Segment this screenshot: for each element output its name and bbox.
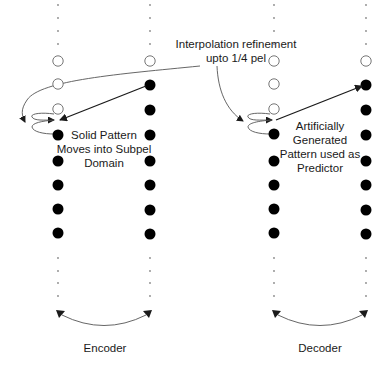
diagram-canvas: Interpolation refinement upto 1/4 pel So… — [0, 0, 392, 370]
pixel-ellipsis-dot — [149, 257, 151, 259]
pixel-filled-dot — [361, 156, 372, 167]
pixel-filled-dot — [361, 229, 372, 240]
pixel-filled-dot — [361, 180, 372, 191]
pixel-filled-dot — [361, 205, 372, 216]
pixel-ellipsis-dot — [273, 30, 275, 32]
pixel-ellipsis-dot — [273, 4, 275, 6]
encoder-label: Encoder — [84, 342, 127, 354]
pixel-ellipsis-dot — [365, 257, 367, 259]
pixel-ellipsis-dot — [57, 4, 59, 6]
subpel-hollow-dot — [269, 79, 279, 89]
pixel-ellipsis-dot — [149, 295, 151, 297]
pixel-ellipsis-dot — [57, 270, 59, 272]
pixel-filled-dot — [145, 229, 156, 240]
subpel-hollow-dot — [53, 104, 63, 114]
pixel-ellipsis-dot — [57, 30, 59, 32]
pixel-ellipsis-dot — [365, 282, 367, 284]
pixel-filled-dot — [145, 105, 156, 116]
subpel-hollow-dot — [269, 56, 279, 66]
pixel-ellipsis-dot — [273, 43, 275, 45]
pixel-ellipsis-dot — [149, 17, 151, 19]
pixel-filled-dot — [145, 156, 156, 167]
pixel-ellipsis-dot — [149, 43, 151, 45]
pixel-filled-dot — [53, 156, 64, 167]
decoder-caption-line: Artificially — [296, 120, 345, 132]
pixel-filled-dot — [53, 180, 64, 191]
pixel-filled-dot — [269, 180, 280, 191]
decoder-caption-line: Predictor — [297, 162, 343, 174]
pixel-ellipsis-dot — [57, 17, 59, 19]
pixel-ellipsis-dot — [273, 257, 275, 259]
subpel-hollow-dot — [145, 56, 155, 66]
decoder-panel: ArtificiallyGeneratedPattern used asPred… — [269, 4, 372, 354]
annotation-line-2: upto 1/4 pel — [206, 52, 266, 64]
pixel-filled-dot — [269, 129, 280, 140]
pixel-filled-dot — [145, 180, 156, 191]
subpel-hollow-dot — [269, 104, 279, 114]
decoder-label: Decoder — [298, 342, 342, 354]
pixel-ellipsis-dot — [273, 270, 275, 272]
arrowhead-left-icon — [272, 310, 281, 318]
decoder-caption-line: Generated — [293, 134, 347, 146]
pixel-filled-dot — [361, 130, 372, 141]
pixel-ellipsis-dot — [149, 4, 151, 6]
encoder-motion-arrow — [60, 86, 146, 120]
pixel-ellipsis-dot — [57, 257, 59, 259]
pixel-filled-dot — [269, 204, 280, 215]
encoder-panel: Solid PatternMoves into SubpelDomainEnco… — [53, 4, 156, 354]
decoder-caption-line: Pattern used as — [280, 148, 361, 160]
encoder-caption-line: Solid Pattern — [71, 129, 137, 141]
pixel-ellipsis-dot — [365, 295, 367, 297]
pixel-ellipsis-dot — [365, 30, 367, 32]
pixel-ellipsis-dot — [273, 282, 275, 284]
encoder-caption-line: Domain — [84, 157, 124, 169]
pixel-ellipsis-dot — [365, 17, 367, 19]
annotation-curve-to-decoder — [217, 66, 243, 121]
arrowhead-left-icon — [56, 310, 65, 318]
pixel-filled-dot — [361, 80, 372, 91]
pixel-filled-dot — [145, 205, 156, 216]
pixel-ellipsis-dot — [273, 295, 275, 297]
annotation-line-1: Interpolation refinement — [176, 38, 298, 50]
decoder-subpel-loops — [248, 113, 272, 134]
decoder-motion-arrow — [276, 86, 362, 120]
pixel-ellipsis-dot — [57, 282, 59, 284]
encoder-subpel-loops — [32, 113, 54, 134]
pixel-filled-dot — [53, 228, 64, 239]
pixel-ellipsis-dot — [57, 43, 59, 45]
pixel-filled-dot — [53, 204, 64, 215]
pixel-ellipsis-dot — [273, 17, 275, 19]
pixel-ellipsis-dot — [149, 282, 151, 284]
pixel-filled-dot — [145, 130, 156, 141]
subpel-hollow-dot — [53, 56, 63, 66]
pixel-ellipsis-dot — [149, 270, 151, 272]
arrowhead-right-icon — [143, 310, 152, 318]
encoder-caption-line: Moves into Subpel — [57, 143, 152, 155]
pixel-ellipsis-dot — [149, 30, 151, 32]
subpel-hollow-dot — [53, 79, 63, 89]
subpel-hollow-dot — [361, 56, 371, 66]
pixel-filled-dot — [269, 228, 280, 239]
pixel-ellipsis-dot — [365, 270, 367, 272]
pixel-ellipsis-dot — [365, 4, 367, 6]
pixel-filled-dot — [145, 80, 156, 91]
pixel-filled-dot — [53, 130, 64, 141]
pixel-ellipsis-dot — [57, 295, 59, 297]
encoder-span-arc — [62, 315, 146, 326]
decoder-span-arc — [278, 315, 362, 326]
pixel-ellipsis-dot — [365, 43, 367, 45]
decoder-column-2 — [361, 4, 372, 297]
diagram-svg: Interpolation refinement upto 1/4 pel So… — [0, 0, 392, 370]
pixel-filled-dot — [269, 156, 280, 167]
pixel-filled-dot — [361, 105, 372, 116]
arrowhead-right-icon — [359, 310, 368, 318]
